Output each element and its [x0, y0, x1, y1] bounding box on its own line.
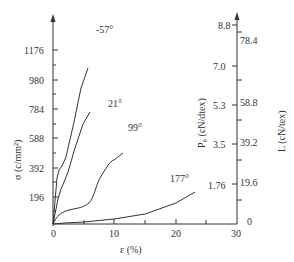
left-axis-title: σ (c/mm²): [13, 140, 23, 180]
p0-tick-5.3: 5.3: [213, 101, 226, 111]
right-axis-arrow-icon: [235, 12, 240, 20]
p0-tick-7.0: 7.0: [213, 62, 226, 72]
series-177: [53, 192, 195, 224]
x-tick-10: 10: [109, 229, 119, 239]
x-tick-20: 20: [171, 229, 181, 239]
p0-tick-8.8: 8.8: [218, 21, 231, 31]
l-tick-39.2: 39.2: [240, 138, 258, 148]
y-tick-392: 392: [29, 164, 44, 174]
y-tick-196: 196: [29, 193, 44, 203]
label-21: 21°: [108, 99, 122, 109]
y-tick-980: 980: [29, 76, 44, 86]
series-21: [53, 112, 90, 224]
l-axis-title: L (cN/tex): [277, 110, 287, 152]
label-99: 99°: [128, 123, 142, 133]
l-tick-19.6: 19.6: [240, 178, 258, 188]
x-tick-30: 30: [231, 229, 241, 239]
l-tick-78.4: 78.4: [240, 36, 258, 46]
x-axis-label: ε (%): [120, 245, 142, 255]
y-tick-784: 784: [29, 105, 44, 115]
p0-tick-1.76: 1.76: [208, 181, 226, 191]
y-tick-588: 588: [29, 134, 44, 144]
p0-axis-title: P₀ (cN/dtex): [197, 98, 207, 148]
l-tick-0: 0: [247, 217, 252, 227]
series-minus57: [53, 68, 88, 224]
p0-tick-3.5: 3.5: [213, 140, 226, 150]
y-tick-1176: 1176: [24, 46, 44, 56]
x-tick-0: 0: [51, 229, 56, 239]
l-tick-58.8: 58.8: [240, 98, 258, 108]
label-177: 177°: [170, 174, 189, 184]
label-minus57: -57°: [96, 25, 113, 35]
left-axis-arrow-icon: [51, 14, 56, 22]
